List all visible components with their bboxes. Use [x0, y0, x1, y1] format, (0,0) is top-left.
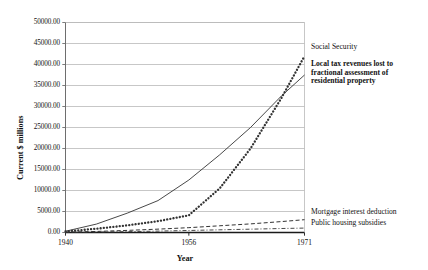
y-tick-label: 20000.00: [6, 144, 60, 152]
series-line-1: [66, 56, 305, 231]
gridlines: [66, 23, 305, 212]
y-tick-label: 45000.00: [6, 39, 60, 47]
series-label-local-tax-revenues: Local tax revenues lost to fractional as…: [311, 60, 416, 86]
y-tick-label: 15000.00: [6, 165, 60, 173]
series-lines: [66, 56, 305, 232]
x-tick-label: 1956: [169, 238, 209, 247]
x-tick-label: 1940: [46, 238, 86, 247]
series-label-public-housing-subsidies: Public housing subsidies: [311, 219, 386, 228]
y-tick-label: 30000.00: [6, 102, 60, 110]
series-label-social-security: Social Security: [311, 43, 357, 52]
y-tick-label: 5000.00: [6, 207, 60, 215]
y-tick-label: 40000.00: [6, 60, 60, 68]
series-line-0: [66, 75, 305, 231]
x-tick-label: 1971: [285, 238, 325, 247]
y-tick-label: 35000.00: [6, 81, 60, 89]
x-axis-title: Year: [155, 254, 215, 263]
y-tick-label: 50000.00: [6, 18, 60, 26]
line-chart: 0.005000.0010000.0015000.0020000.0025000…: [0, 0, 428, 270]
y-axis-title: Current $ millions: [16, 116, 25, 180]
y-tick-label: 10000.00: [6, 186, 60, 194]
y-tick-label: 25000.00: [6, 123, 60, 131]
series-label-mortgage-interest-deduction: Mortgage interest deduction: [311, 208, 397, 217]
y-tick-label: 0.00: [6, 228, 60, 236]
chart-canvas: [0, 0, 428, 270]
